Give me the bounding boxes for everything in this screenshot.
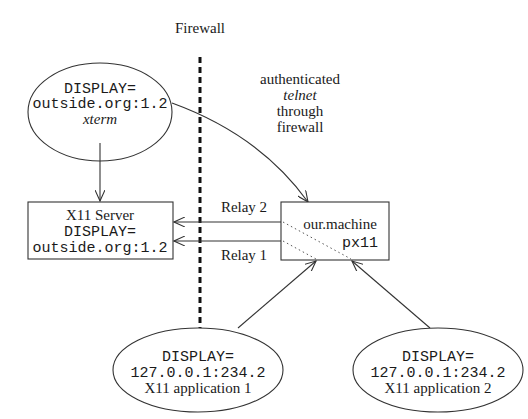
x11-server-display-value: outside.org:1.2 bbox=[32, 240, 167, 257]
x11-server-box: X11 Server DISPLAY= outside.org:1.2 bbox=[28, 202, 173, 259]
x11-app-1-node: DISPLAY= 127.0.0.1:234.2 X11 application… bbox=[113, 328, 283, 412]
firewall-label: Firewall bbox=[175, 20, 225, 36]
relay-1-label: Relay 1 bbox=[221, 247, 267, 263]
telnet-note-line3: through bbox=[277, 103, 324, 119]
telnet-note-line2: telnet bbox=[283, 87, 317, 103]
machine-hostname: our.machine bbox=[303, 216, 377, 232]
x11-server-label: X11 Server bbox=[66, 207, 134, 223]
x11-server-display-label: DISPLAY= bbox=[64, 224, 136, 241]
machine-program: px11 bbox=[342, 235, 378, 252]
relay-2-label: Relay 2 bbox=[221, 199, 267, 215]
xterm-label: xterm bbox=[82, 111, 117, 127]
machine-box: our.machine px11 bbox=[281, 202, 389, 260]
telnet-note-line4: firewall bbox=[277, 119, 324, 135]
app1-display-label: DISPLAY= bbox=[162, 349, 234, 366]
telnet-note: authenticated telnet through firewall bbox=[260, 71, 340, 135]
diagram-svg: Firewall DISPLAY= outside.org:1.2 xterm … bbox=[0, 0, 528, 419]
diagram-canvas: Firewall DISPLAY= outside.org:1.2 xterm … bbox=[0, 0, 528, 419]
app2-display-label: DISPLAY= bbox=[402, 349, 474, 366]
app2-to-machine-arrow bbox=[352, 261, 430, 328]
app1-to-machine-arrow bbox=[238, 261, 316, 328]
telnet-note-line1: authenticated bbox=[260, 71, 340, 87]
app2-label: X11 application 2 bbox=[385, 380, 492, 396]
app1-label: X11 application 1 bbox=[145, 380, 252, 396]
x11-app-2-node: DISPLAY= 127.0.0.1:234.2 X11 application… bbox=[353, 328, 523, 412]
